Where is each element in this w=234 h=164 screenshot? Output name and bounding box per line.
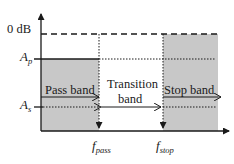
stop-band-label: Stop band — [164, 84, 214, 97]
zero-db-label: 0 dB — [7, 23, 31, 36]
as-label: As — [20, 98, 31, 114]
transition-label-line1: Transition — [107, 78, 158, 91]
as-label-sub: s — [28, 104, 31, 114]
ap-label-main: A — [20, 49, 28, 64]
pass-band-label: Pass band — [45, 84, 95, 97]
filter-spec-diagram: 0 dB Ap As Pass band Transition band Sto… — [0, 0, 234, 164]
fpass-label: fpass — [92, 139, 111, 155]
fstop-label-sub: stop — [160, 145, 174, 155]
fstop-label: fstop — [156, 139, 174, 155]
fpass-label-sub: pass — [96, 145, 111, 155]
ap-label-sub: p — [28, 56, 32, 66]
transition-label-line2: band — [118, 93, 142, 106]
as-label-main: A — [20, 97, 28, 112]
ap-label: Ap — [20, 50, 32, 66]
